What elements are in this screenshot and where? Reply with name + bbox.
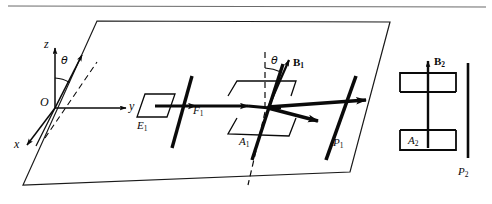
filter-label-sub: 1 (200, 109, 204, 118)
axis-origin-label: O (40, 96, 49, 108)
analyzer1-label-A1: A1 (239, 136, 249, 148)
axis-label-y: y (129, 100, 134, 112)
filter-F1 (172, 76, 192, 148)
source-label-sub: 1 (144, 124, 148, 133)
analyzer1-label-sub: 1 (246, 140, 250, 149)
theta-arc-B1 (265, 68, 281, 72)
theta-label-B1: θ (271, 55, 278, 66)
analyzer1-dashed-normal (248, 52, 265, 185)
screen1-label-P1: P1 (333, 137, 343, 149)
source-label-E1: E1 (137, 120, 147, 132)
field2-label-B2: B2 (434, 56, 445, 68)
axis-label-z: z (44, 38, 49, 50)
screen1-label-text: P (333, 136, 340, 148)
field2-label-sub: 2 (441, 60, 445, 69)
split-ray-lower (268, 108, 318, 121)
beam-into-split (248, 106, 270, 108)
screen2-label-P2: P2 (458, 166, 468, 178)
screen1-label-sub: 1 (340, 141, 344, 150)
filter-label-F1: F1 (193, 105, 203, 117)
theta-label-origin: θ (61, 55, 68, 66)
analyzer2-label-sub: 2 (415, 139, 419, 148)
scan-border-rule (8, 6, 486, 7)
analyzer2-label-text: A (408, 134, 415, 146)
screen2-label-text: P (458, 165, 465, 177)
split-ray-upper (268, 100, 366, 107)
figure-canvas: z y x O θ E1 F1 A1 θ B1 P1 B2 A2 P2 (0, 0, 492, 204)
axes-dashed-reference (45, 62, 97, 138)
theta-arc (55, 78, 70, 83)
field1-label-sub: 1 (300, 61, 304, 70)
analyzer1-label-text: A (239, 135, 246, 147)
axis-label-x: x (14, 138, 19, 150)
field1-label-B1: B1 (293, 57, 304, 69)
filter-label-text: F (193, 104, 200, 116)
diagram-svg (0, 0, 492, 204)
x-axis (27, 108, 55, 145)
source-label-text: E (137, 119, 144, 131)
screen2-label-sub: 2 (465, 170, 469, 179)
analyzer2-label-A2: A2 (408, 135, 418, 147)
